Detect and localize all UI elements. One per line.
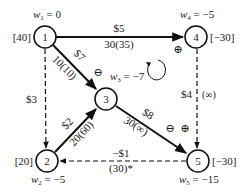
arc-1-3: $7 10(10) ⊖ <box>50 45 103 89</box>
arc-1-4: $5 30(35) <box>56 22 183 51</box>
node-3-potential: w3 = −7 <box>110 70 145 84</box>
node-4-potential: w4 = −5 <box>180 8 215 22</box>
plus-sign-icon: ⊕ <box>180 122 189 134</box>
node-1: 1 [40] w1 = 0 <box>13 8 62 48</box>
clockwise-cycle-icon <box>146 60 166 80</box>
arc-3-5-cost: $8 <box>140 106 156 122</box>
node-5-label: 5 <box>195 155 201 167</box>
arc-1-2: $3 <box>26 49 46 148</box>
node-5: 5 [−30] w5 = −15 <box>179 150 237 187</box>
arc-5-2-cost: −$1 <box>112 147 129 159</box>
node-4-supply: [−30] <box>210 31 235 43</box>
node-3-label: 3 <box>103 93 109 105</box>
arc-2-3: $2 20(60) <box>55 109 96 152</box>
node-5-supply: [−30] <box>212 155 237 167</box>
arc-4-5-cost: $4 <box>181 88 193 100</box>
node-4-label: 4 <box>193 31 199 43</box>
node-2-label: 2 <box>44 155 50 167</box>
node-1-supply: [40] <box>13 31 31 43</box>
node-2-supply: [20] <box>15 155 33 167</box>
node-1-potential: w1 = 0 <box>33 8 62 22</box>
arc-4-5: $4 (∞) ⊕ <box>180 49 215 148</box>
plus-sign-icon: ⊕ <box>173 43 182 55</box>
arc-1-2-cost: $3 <box>26 93 38 105</box>
network-flow-diagram: $5 30(35) $7 10(10) ⊖ $3 $2 20(60) $8 30… <box>0 0 245 192</box>
node-2: 2 [20] w2 = −5 <box>15 150 66 187</box>
arc-5-2: −$1 (30)* <box>60 147 186 175</box>
node-2-potential: w2 = −5 <box>31 173 66 187</box>
node-4: 4 [−30] w4 = −5 <box>180 8 235 48</box>
minus-sign-icon: ⊖ <box>165 122 174 134</box>
arc-1-4-cost: $5 <box>114 22 126 34</box>
node-1-label: 1 <box>42 31 48 43</box>
arc-5-2-flow: (30)* <box>109 162 133 175</box>
arc-1-4-flow: 30(35) <box>104 38 134 51</box>
minus-sign-icon: ⊖ <box>93 66 102 78</box>
arc-4-5-flow: (∞) <box>202 89 216 101</box>
arc-2-3-cost: $2 <box>59 115 75 131</box>
arc-3-5: $8 30(∞) ⊖ <box>116 106 186 153</box>
node-5-potential: w5 = −15 <box>179 173 219 187</box>
arc-1-3-cost: $7 <box>72 47 89 64</box>
